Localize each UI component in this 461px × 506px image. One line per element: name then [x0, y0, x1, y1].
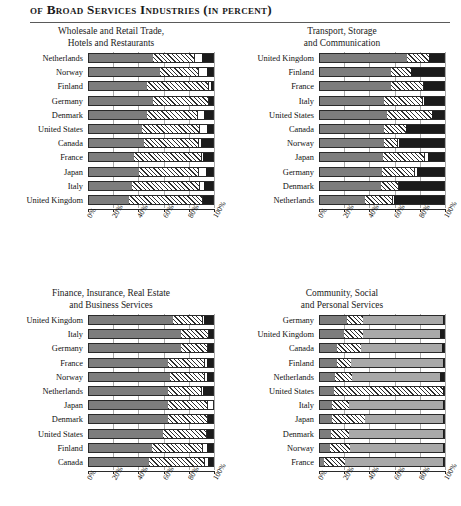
- chart-rows-wholesale-retail: NetherlandsNorwayFinlandGermanyDenmarkUn…: [0, 52, 216, 208]
- category-label: Canada: [231, 123, 314, 136]
- chart-title-finance-insurance: Finance, Insurance, Real Estateand Busin…: [0, 288, 222, 311]
- chart-row: Norway: [231, 137, 447, 151]
- category-label: United Kingdom: [0, 314, 83, 327]
- stacked-bar: [88, 124, 214, 134]
- category-label: Finland: [0, 80, 83, 93]
- bar-segment-2: [330, 444, 350, 452]
- stacked-bar: [319, 414, 445, 424]
- bar-segment-1: [320, 316, 347, 324]
- chart-row: Japan: [0, 166, 216, 180]
- bar-segment-1: [89, 387, 168, 395]
- bar-segment-1: [89, 111, 147, 119]
- stacked-bar: [319, 96, 445, 106]
- bar-segment-2: [381, 182, 398, 190]
- stacked-bar: [319, 67, 445, 77]
- chart-rows-finance-insurance: United KingdomItalyGermanyFranceNorwayNe…: [0, 314, 216, 470]
- chart-row: Netherlands: [0, 52, 216, 66]
- category-label: Norway: [231, 137, 314, 150]
- category-label: Finland: [231, 357, 314, 370]
- bar-segment-4: [417, 168, 444, 176]
- bar-segment-4: [443, 359, 444, 367]
- bar-segment-3: [363, 330, 440, 338]
- bar-segment-4: [209, 97, 213, 105]
- category-label: United Kingdom: [231, 52, 314, 65]
- bar-segment-2: [384, 125, 405, 133]
- bar-segment-4: [203, 153, 213, 161]
- bar-segment-1: [320, 430, 331, 438]
- bar-segment-1: [320, 68, 391, 76]
- chart-title-line-2: and Personal Services: [231, 300, 453, 312]
- chart-title-line-2: and Business Services: [0, 300, 222, 312]
- bar-segment-4: [443, 415, 444, 423]
- bar-segment-4: [201, 139, 213, 147]
- stacked-bar: [88, 315, 214, 325]
- bar-segment-3: [345, 458, 443, 466]
- bar-segment-4: [440, 373, 444, 381]
- category-label: Japan: [0, 166, 83, 179]
- bar-segment-1: [320, 139, 384, 147]
- chart-row: United States: [231, 109, 447, 123]
- bar-segment-2: [153, 54, 194, 62]
- bar-segment-1: [320, 344, 337, 352]
- chart-row: Germany: [0, 95, 216, 109]
- stacked-bar: [88, 110, 214, 120]
- chart-row: Norway: [0, 66, 216, 80]
- chart-row: Finland: [231, 66, 447, 80]
- category-label: Japan: [0, 399, 83, 412]
- bar-segment-1: [320, 401, 332, 409]
- page-title: of Broad Services Industries (in percent…: [30, 2, 272, 18]
- bar-segment-2: [168, 415, 206, 423]
- category-label: Germany: [231, 166, 314, 179]
- stacked-bar: [319, 53, 445, 63]
- bar-segment-1: [89, 330, 181, 338]
- chart-row: France: [0, 357, 216, 371]
- chart-row: Denmark: [231, 180, 447, 194]
- bar-segment-3: [194, 54, 201, 62]
- category-label: Germany: [0, 95, 83, 108]
- bar-segment-2: [132, 182, 199, 190]
- category-label: Japan: [231, 413, 314, 426]
- bar-segment-4: [208, 344, 213, 352]
- stacked-bar: [319, 110, 445, 120]
- bar-segment-4: [208, 458, 213, 466]
- bar-segment-3: [198, 168, 205, 176]
- chart-row: Italy: [0, 328, 216, 342]
- bar-segment-4: [207, 430, 213, 438]
- bar-segment-1: [89, 97, 153, 105]
- bar-segment-2: [152, 444, 202, 452]
- stacked-bar: [88, 429, 214, 439]
- bar-segment-2: [344, 330, 364, 338]
- stacked-bar: [319, 386, 445, 396]
- bar-segment-1: [89, 68, 160, 76]
- category-label: Italy: [231, 399, 314, 412]
- category-label: Finland: [0, 442, 83, 455]
- bar-segment-3: [351, 359, 443, 367]
- bar-segment-4: [443, 387, 444, 395]
- bar-segment-4: [443, 458, 444, 466]
- chart-rows-community-social: GermanyUnited KingdomCanadaFinlandNether…: [231, 314, 447, 470]
- stacked-bar: [88, 81, 214, 91]
- bar-segment-2: [337, 344, 361, 352]
- category-label: United States: [0, 428, 83, 441]
- bar-segment-2: [181, 330, 208, 338]
- chart-row: Germany: [0, 342, 216, 356]
- bar-segment-4: [411, 68, 444, 76]
- bar-segment-4: [209, 330, 213, 338]
- bar-segment-4: [206, 168, 213, 176]
- bar-segment-1: [320, 168, 382, 176]
- category-label: Italy: [231, 95, 314, 108]
- chart-row: France: [231, 456, 447, 470]
- chart-row: Italy: [231, 95, 447, 109]
- category-label: Netherlands: [0, 385, 83, 398]
- stacked-bar: [88, 167, 214, 177]
- category-label: United Kingdom: [231, 328, 314, 341]
- bar-segment-4: [399, 182, 444, 190]
- bar-segment-1: [89, 430, 163, 438]
- bar-segment-2: [149, 458, 205, 466]
- chart-title-line-1: Transport, Storage: [231, 26, 453, 38]
- bar-segment-2: [144, 139, 199, 147]
- bar-segment-1: [320, 387, 334, 395]
- bar-segment-4: [202, 54, 213, 62]
- stacked-bar: [88, 53, 214, 63]
- bar-segment-4: [406, 125, 444, 133]
